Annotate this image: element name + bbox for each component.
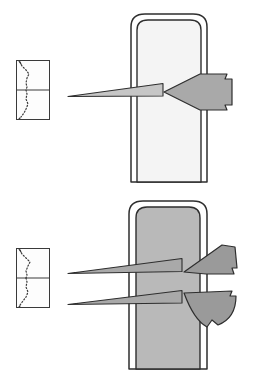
blade-left-top	[68, 84, 163, 97]
key-box-top-crack-end	[19, 118, 20, 119]
key-box-top	[17, 61, 50, 120]
blade-left-lower-bottom-body	[68, 291, 182, 305]
key-box-bottom	[17, 249, 50, 308]
blade-left-top-body	[68, 84, 163, 97]
figure-root: Wedge splitting schematic	[0, 0, 254, 382]
blade-left-upper-bottom-body	[68, 259, 182, 274]
panel-top	[17, 14, 233, 182]
blade-left-upper-bottom	[68, 259, 182, 274]
specimen-bottom	[129, 201, 207, 369]
key-box-bottom-crack-end	[19, 306, 20, 307]
panel-bottom	[17, 201, 238, 369]
splitting-diagram-svg	[0, 0, 254, 382]
specimen-bottom-inner-outline	[136, 207, 200, 369]
blade-left-lower-bottom	[68, 291, 182, 305]
